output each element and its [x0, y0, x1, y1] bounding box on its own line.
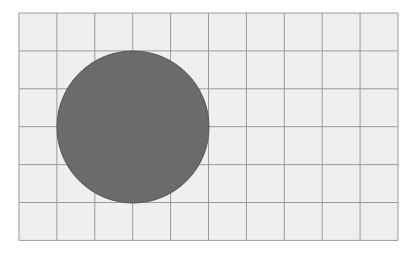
- circle-shape[interactable]: [57, 51, 209, 203]
- grid-board: [0, 0, 417, 253]
